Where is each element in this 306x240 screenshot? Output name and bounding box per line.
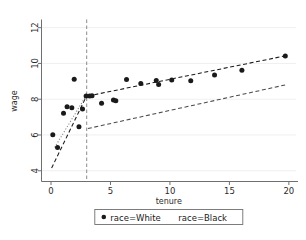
data-point-white-7 bbox=[80, 107, 85, 112]
data-point-white-6 bbox=[76, 124, 81, 129]
data-point-white-3 bbox=[65, 104, 70, 109]
legend-marker-white bbox=[102, 215, 107, 220]
x-axis-title: tenure bbox=[156, 197, 182, 206]
data-point-white-1 bbox=[55, 145, 60, 150]
y-tick-label-0: 4 bbox=[31, 168, 41, 173]
data-point-white-10 bbox=[90, 93, 95, 98]
y-tick-label-2: 8 bbox=[31, 96, 41, 101]
data-point-white-4 bbox=[69, 105, 74, 110]
chart-container: 468101205101520tenurewagerace=Whiterace=… bbox=[0, 0, 306, 240]
data-point-white-19 bbox=[188, 78, 193, 83]
x-tick-label-1: 5 bbox=[108, 186, 113, 196]
y-tick-label-3: 10 bbox=[31, 58, 41, 69]
x-tick-label-0: 0 bbox=[48, 186, 53, 196]
rd-scatter-plot: 468101205101520tenurewagerace=Whiterace=… bbox=[0, 0, 306, 240]
x-tick-label-2: 10 bbox=[165, 186, 176, 196]
data-point-white-15 bbox=[138, 81, 143, 86]
data-point-white-20 bbox=[212, 73, 217, 78]
data-point-white-21 bbox=[239, 68, 244, 73]
data-point-white-18 bbox=[169, 77, 174, 82]
x-tick-label-4: 20 bbox=[283, 186, 294, 196]
data-point-white-11 bbox=[99, 101, 104, 106]
y-tick-label-4: 12 bbox=[31, 22, 41, 33]
data-point-white-22 bbox=[283, 53, 288, 58]
y-axis-title: wage bbox=[10, 90, 19, 112]
data-point-white-5 bbox=[72, 77, 77, 82]
legend-label-0: race=White bbox=[110, 213, 160, 223]
y-tick-label-1: 6 bbox=[31, 132, 41, 137]
data-point-white-0 bbox=[50, 132, 55, 137]
x-tick-label-3: 15 bbox=[224, 186, 235, 196]
data-point-white-14 bbox=[124, 77, 129, 82]
data-point-white-2 bbox=[61, 111, 66, 116]
data-point-white-13 bbox=[113, 98, 118, 103]
chart-background bbox=[0, 0, 306, 240]
data-point-white-17 bbox=[156, 82, 161, 87]
legend-label-1: race=Black bbox=[178, 213, 227, 223]
